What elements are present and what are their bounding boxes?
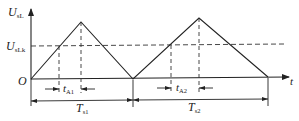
- Ts2-dimension: [133, 99, 268, 100]
- tA1-label: tA1: [63, 82, 74, 95]
- waveform-diagram: UsL UsLk O t tA1 tA2 Ts1 Ts2: [0, 0, 299, 121]
- threshold-label: UsLk: [6, 39, 26, 54]
- x-axis-label: t: [290, 75, 294, 87]
- tA2-label: tA2: [176, 81, 187, 94]
- x-axis: [31, 77, 289, 79]
- origin-label: O: [18, 74, 27, 88]
- y-axis-label: UsL: [8, 5, 24, 20]
- triangle-waveform: [31, 18, 268, 79]
- Ts1-label: Ts1: [76, 101, 88, 115]
- Ts2-label: Ts2: [188, 100, 200, 114]
- threshold-line: [31, 44, 284, 46]
